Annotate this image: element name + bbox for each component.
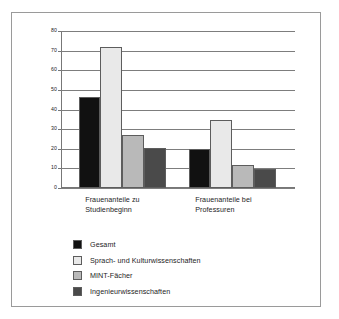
- bar: [254, 169, 276, 188]
- category-label: Frauenanteile bei Professuren: [195, 195, 251, 214]
- bar: [232, 165, 254, 188]
- bar: [189, 149, 211, 188]
- bar: [122, 135, 144, 188]
- y-tick-label: 80: [51, 28, 57, 33]
- legend-label: Sprach- und Kulturwissenschaften: [90, 257, 201, 264]
- chart-figure: 01020304050607080 Frauenanteile zu Studi…: [0, 0, 339, 319]
- legend-swatch: [73, 287, 82, 296]
- legend-swatch: [73, 271, 82, 280]
- chart-legend: GesamtSprach- und KulturwissenschaftenMI…: [73, 237, 201, 299]
- bar: [144, 148, 166, 188]
- bar: [100, 47, 122, 188]
- legend-swatch: [73, 256, 82, 265]
- legend-item: MINT-Fächer: [73, 268, 201, 284]
- bars-layer: [61, 31, 295, 188]
- plot-area: 01020304050607080: [61, 31, 295, 188]
- bar: [210, 120, 232, 188]
- gridline: [61, 188, 295, 189]
- category-label: Frauenanteile zu Studienbeginn: [85, 195, 139, 214]
- y-tick-label: 30: [51, 127, 57, 132]
- bar: [79, 97, 101, 188]
- y-tick-label: 60: [51, 68, 57, 73]
- legend-item: Ingenieurwissenschaften: [73, 284, 201, 300]
- y-tick-label: 50: [51, 87, 57, 92]
- y-tick-label: 0: [54, 185, 57, 190]
- legend-label: MINT-Fächer: [90, 272, 132, 279]
- y-tick-label: 70: [51, 48, 57, 53]
- legend-label: Gesamt: [90, 241, 115, 248]
- y-tick-mark: [58, 188, 61, 189]
- legend-label: Ingenieurwissenschaften: [90, 288, 170, 295]
- y-tick-label: 20: [51, 146, 57, 151]
- legend-item: Sprach- und Kulturwissenschaften: [73, 253, 201, 269]
- y-tick-label: 10: [51, 166, 57, 171]
- legend-swatch: [73, 240, 82, 249]
- legend-item: Gesamt: [73, 237, 201, 253]
- y-tick-label: 40: [51, 107, 57, 112]
